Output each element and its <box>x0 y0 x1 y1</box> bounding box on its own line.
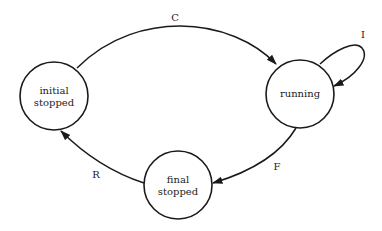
state-label-initial-line2: stopped <box>34 97 75 108</box>
edge-f-arrow <box>213 128 296 183</box>
transition-c: C <box>77 12 276 68</box>
state-label-running: running <box>280 88 321 99</box>
edge-r-arrow <box>61 131 144 183</box>
state-running: running <box>266 60 334 128</box>
edge-label-c: C <box>171 12 179 23</box>
transition-r: R <box>61 131 144 183</box>
state-node-final <box>144 151 212 219</box>
edge-label-f: F <box>274 161 281 172</box>
state-initial-stopped: initial stopped <box>20 62 88 130</box>
transition-f: F <box>213 128 296 183</box>
state-label-final-line2: stopped <box>158 186 199 197</box>
edge-label-r: R <box>92 169 100 180</box>
state-label-initial-line1: initial <box>39 85 68 96</box>
state-final-stopped: final stopped <box>144 151 212 219</box>
state-node-initial <box>20 62 88 130</box>
state-label-final-line1: final <box>167 174 189 185</box>
state-diagram: C I F R initial stopped running final st… <box>0 0 382 231</box>
edge-label-i: I <box>361 29 365 40</box>
edge-c-arrow <box>77 26 276 68</box>
